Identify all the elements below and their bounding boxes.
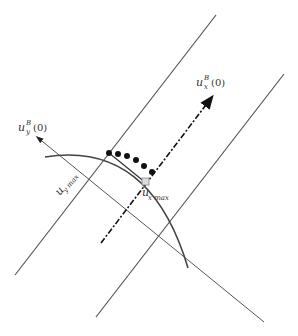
boundary-line-left <box>15 15 216 275</box>
arc-points <box>106 150 155 175</box>
diagram-canvas: u B x (0) u B y (0) u y max u x max <box>0 0 298 336</box>
uy-max-label: u y max <box>52 169 80 200</box>
ux-axis-line <box>101 97 212 243</box>
boundary-line-right <box>96 74 284 317</box>
svg-text:y: y <box>25 128 31 136</box>
ux-max-marker <box>142 178 149 185</box>
svg-text:(0): (0) <box>211 77 225 88</box>
svg-text:B: B <box>25 119 31 127</box>
arc-point <box>106 150 112 156</box>
svg-text:y max: y max <box>61 173 81 195</box>
arc-point <box>133 157 139 163</box>
circle-arc <box>45 155 188 268</box>
svg-text:(0): (0) <box>33 122 47 133</box>
arc-point <box>141 163 147 169</box>
uy-axis-line <box>37 137 264 322</box>
svg-text:x: x <box>204 83 208 91</box>
ux-axis-label: u B x (0) <box>196 74 225 91</box>
svg-text:x max: x max <box>148 194 169 202</box>
arc-point <box>124 153 130 159</box>
svg-text:u: u <box>196 76 203 89</box>
svg-text:B: B <box>203 74 209 82</box>
ux-max-label: u x max <box>142 186 169 202</box>
arc-point <box>115 151 121 157</box>
uy-axis-label: u B y (0) <box>18 119 47 136</box>
svg-text:u: u <box>18 121 25 134</box>
arc-point <box>149 169 155 175</box>
